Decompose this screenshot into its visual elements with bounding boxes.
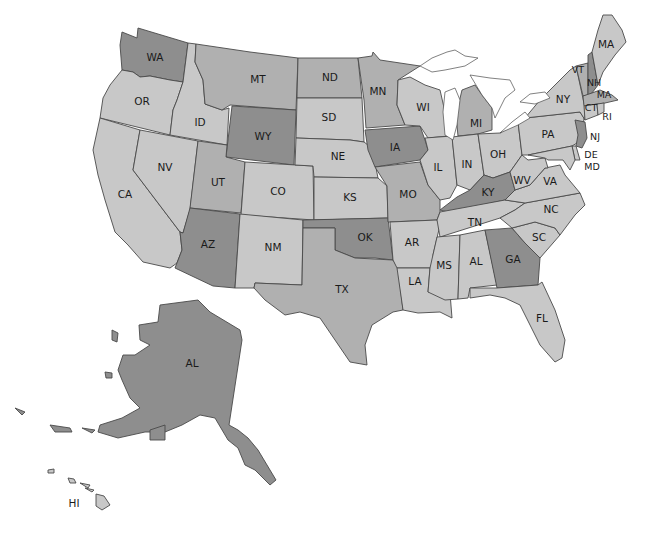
label-ks: KS: [343, 191, 357, 203]
label-mn: MN: [370, 85, 387, 97]
label-tn: TN: [467, 216, 482, 228]
label-la: LA: [408, 275, 422, 287]
label-mt: MT: [250, 73, 266, 85]
label-nm: NM: [265, 241, 282, 253]
label-ut: UT: [211, 176, 226, 188]
label-mi: MI: [470, 117, 482, 129]
label-va: VA: [543, 175, 558, 187]
label-wa: WA: [147, 51, 165, 63]
label-ct: CT: [585, 102, 598, 113]
label-sc: SC: [532, 231, 546, 243]
lake-superior: [420, 50, 478, 72]
label-nd: ND: [322, 71, 338, 83]
label-il: IL: [434, 161, 443, 173]
label-ne: NE: [331, 150, 346, 162]
label-ms: MS: [436, 259, 452, 271]
label-md: MD: [584, 161, 600, 172]
label-oh: OH: [490, 148, 506, 160]
label-nc: NC: [543, 203, 558, 215]
label-wi: WI: [416, 101, 429, 113]
label-nj: NJ: [590, 131, 600, 142]
label-de: DE: [584, 149, 597, 160]
us-map: WA OR CA ID NV MT WY UT AZ CO NM ND SD N…: [0, 0, 647, 535]
label-ma: MA: [597, 89, 612, 100]
label-hi: HI: [69, 497, 80, 509]
label-al: AL: [469, 255, 482, 267]
state-me[interactable]: [592, 15, 626, 85]
label-ny: NY: [556, 93, 571, 105]
alaska-stlawrence[interactable]: [112, 330, 118, 342]
state-fl[interactable]: [470, 282, 565, 362]
label-ky: KY: [482, 186, 496, 198]
label-sd: SD: [322, 111, 337, 123]
label-ak: AL: [185, 357, 198, 369]
label-wy: WY: [255, 130, 272, 142]
label-ri: RI: [602, 111, 611, 122]
label-ca: CA: [118, 188, 133, 200]
alaska-aleutians[interactable]: [15, 408, 95, 433]
label-wv: WV: [513, 174, 531, 186]
label-az: AZ: [201, 238, 215, 250]
label-nh: NH: [587, 77, 601, 88]
alaska-nunivak[interactable]: [105, 372, 112, 378]
label-mo: MO: [399, 188, 416, 200]
label-ia: IA: [390, 141, 401, 153]
state-mt[interactable]: [195, 44, 298, 110]
state-ak[interactable]: [98, 300, 276, 485]
label-fl: FL: [536, 312, 548, 324]
label-me: MA: [598, 38, 615, 50]
label-pa: PA: [542, 128, 556, 140]
label-nv: NV: [157, 161, 173, 173]
label-ar: AR: [405, 236, 419, 248]
label-ga: GA: [505, 253, 521, 265]
label-ok: OK: [357, 231, 373, 243]
label-vt: VT: [572, 64, 584, 75]
label-in: IN: [462, 158, 473, 170]
label-or: OR: [134, 95, 150, 107]
label-co: CO: [270, 185, 286, 197]
label-tx: TX: [334, 283, 349, 295]
label-id: ID: [194, 116, 205, 128]
